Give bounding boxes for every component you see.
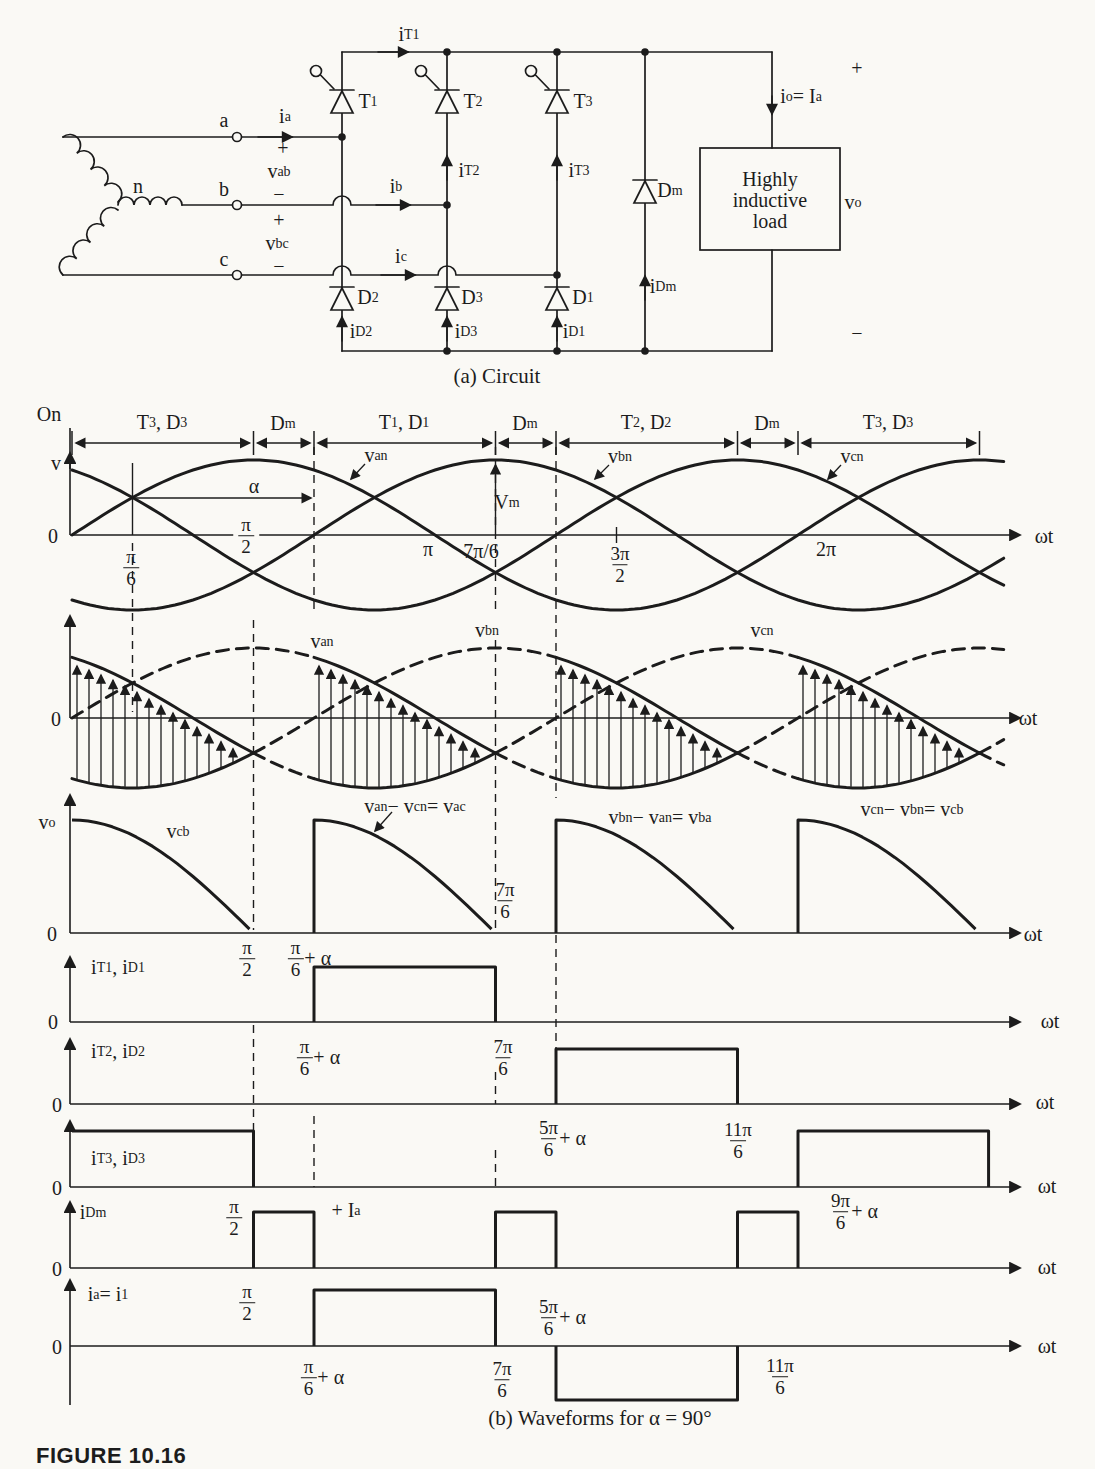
axis-wt-it1: ωt	[1041, 1011, 1060, 1032]
zero-vo: 0	[47, 924, 57, 945]
label-iD3: iD3	[455, 321, 478, 342]
zero-it2: 0	[52, 1095, 62, 1116]
seg-Dm-3: Dm	[754, 413, 779, 434]
plus-vbc: +	[273, 210, 284, 231]
minus-vab: −	[273, 184, 284, 205]
plus-vab: +	[277, 138, 288, 159]
label-D3: D3	[461, 287, 482, 308]
axis-wt-idm: ωt	[1038, 1257, 1057, 1278]
label-iDm: iDm	[650, 276, 677, 297]
eq-vba: vbn − van = vba	[609, 807, 712, 828]
seg-T3D3-1: T3, D3	[137, 412, 188, 433]
label-ic: ic	[395, 246, 407, 267]
tick-pi2-ia: π2	[238, 1281, 256, 1325]
label-plus-Ia: + Ia	[331, 1200, 360, 1221]
caption-circuit: (a) Circuit	[454, 364, 541, 389]
label-Vm: Vm	[494, 492, 519, 513]
curve-label-van-1: van	[364, 445, 387, 466]
label-D1: D1	[572, 287, 593, 308]
zero-detail: 0	[51, 709, 61, 730]
figure-text-labels: nabcia+vab−+vbc−ibiciT1iT2iT3T1T2T3D2D3D…	[0, 0, 1095, 1469]
plus-load: +	[851, 58, 862, 79]
label-ia-i1: ia = i1	[88, 1284, 129, 1305]
label-idm: iDm	[80, 1202, 107, 1223]
zero-it3: 0	[52, 1178, 62, 1199]
figure-number: FIGURE 10.16	[36, 1443, 186, 1469]
axis-wt-it2: ωt	[1036, 1092, 1055, 1113]
zero-ia: 0	[52, 1337, 62, 1358]
label-it2-id2: iT2, iD2	[91, 1041, 145, 1062]
label-it3-id3: iT3, iD3	[91, 1148, 145, 1169]
label-iD2: iD2	[350, 321, 373, 342]
zero-idm: 0	[52, 1259, 62, 1280]
tick-11pi6-ia: 11π6	[765, 1355, 795, 1399]
axis-label-vo: vo	[39, 812, 56, 833]
label-vab: vab	[267, 161, 290, 182]
eq-vac: van − vcn = vac	[364, 796, 465, 817]
textbook-figure-page: nabcia+vab−+vbc−ibiciT1iT2iT3T1T2T3D2D3D…	[0, 0, 1095, 1469]
tick-pi6a-it1: π6 + α	[296, 1036, 340, 1080]
label-T1: T1	[358, 91, 377, 112]
tick-7pi6-vo: 7π6	[494, 879, 515, 923]
seg-T2D2: T2, D2	[621, 412, 672, 433]
label-T3: T3	[573, 91, 592, 112]
label-n: n	[133, 176, 143, 197]
seg-Dm-2: Dm	[512, 413, 537, 434]
curve-label-van-2: van	[310, 631, 333, 652]
tick-5pi6a-it2: 5π6 + α	[538, 1117, 586, 1161]
eq-vcb: vcn − vbn = vcb	[861, 799, 964, 820]
label-a: a	[220, 110, 229, 131]
label-iT2: iT2	[458, 160, 479, 181]
tick-7pi6-it1: 7π6	[492, 1036, 513, 1080]
tick-pi6a-vo: π6 + α	[287, 937, 331, 981]
label-it1-id1: iT1, iD1	[91, 957, 145, 978]
label-iT1: iT1	[398, 24, 419, 45]
minus-vbc: −	[273, 256, 284, 277]
curve-label-vbn-1: vbn	[608, 446, 632, 467]
caption-waveforms: (b) Waveforms for α = 90°	[488, 1406, 711, 1431]
minus-load: −	[851, 323, 862, 344]
alpha-label: α	[249, 476, 259, 497]
curve-label-vcn-1: vcn	[840, 446, 863, 467]
label-vbc: vbc	[265, 233, 288, 254]
tick-pi2-vo: π2	[238, 937, 256, 981]
tick-pi6a-ia: π6 + α	[300, 1356, 344, 1400]
axis-wt-it3: ωt	[1038, 1176, 1057, 1197]
zero-phase: 0	[48, 526, 58, 547]
axis-wt-vo: ωt	[1024, 924, 1043, 945]
axis-wt-ia: ωt	[1038, 1336, 1057, 1357]
label-T2: T2	[463, 91, 482, 112]
label-D2: D2	[357, 287, 378, 308]
label-ia: ia	[279, 106, 291, 127]
tick-pi6: π6	[122, 546, 140, 590]
curve-label-vbn-2: vbn	[475, 620, 499, 641]
seg-Dm-1: Dm	[270, 413, 295, 434]
label-c: c	[220, 249, 229, 270]
curve-label-vcn-2: vcn	[750, 620, 773, 641]
zero-it1: 0	[48, 1012, 58, 1033]
label-io: io = Ia	[780, 86, 822, 107]
tick-7pi6-inline: 7π/6	[463, 541, 499, 562]
label-b: b	[219, 179, 229, 200]
label-iD1: iD1	[563, 321, 586, 342]
tick-5pi6a-ia: 5π6 + α	[538, 1296, 586, 1340]
label-vo-load: vo	[845, 192, 862, 213]
label-iT3: iT3	[568, 160, 589, 181]
seg-T1D1: T1, D1	[379, 412, 430, 433]
label-Dm: Dm	[657, 180, 682, 201]
seg-T3D3-2: T3, D3	[863, 412, 914, 433]
tick-3pi2: 3π2	[609, 543, 630, 587]
on-label: On	[37, 404, 61, 425]
axis-label-v: v	[51, 453, 61, 474]
load-text: Highlyinductiveload	[733, 169, 807, 232]
tick-pi: π	[423, 539, 433, 560]
axis-wt-phase: ωt	[1035, 526, 1054, 547]
tick-11pi6-it2: 11π6	[723, 1119, 753, 1163]
tick-pi2-phase: π2	[233, 514, 259, 558]
tick-pi2-idm: π2	[225, 1196, 243, 1240]
label-ib: ib	[390, 176, 403, 197]
tick-7pi6-ia: 7π6	[491, 1358, 512, 1402]
tick-2pi: 2π	[816, 539, 836, 560]
tick-9pi6a: 9π6 + α	[830, 1190, 878, 1234]
curve-label-vcb: vcb	[166, 821, 189, 842]
